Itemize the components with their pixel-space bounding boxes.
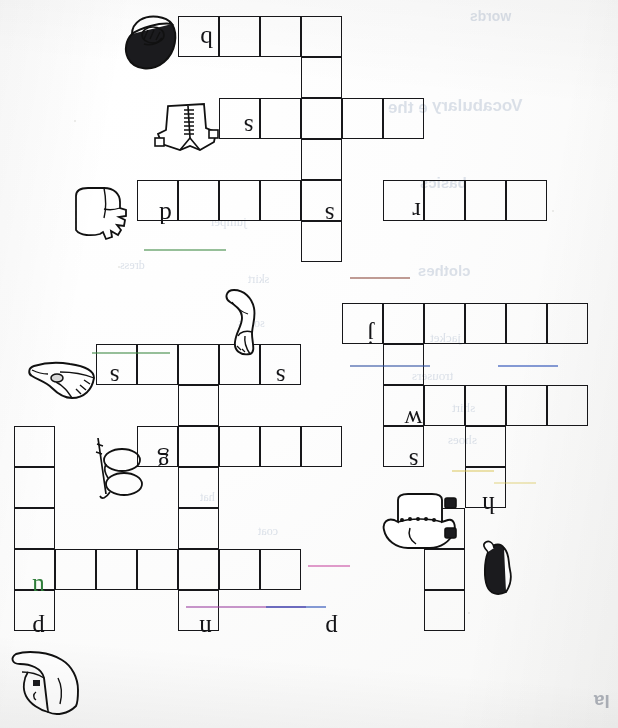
crossword-cell[interactable]: [14, 508, 55, 549]
bird-shoe-image: [26, 350, 98, 408]
paper-speck: [74, 120, 76, 122]
crossword-cell[interactable]: [301, 139, 342, 180]
crossword-cell[interactable]: [301, 221, 342, 262]
crossword-cell[interactable]: [96, 344, 137, 385]
crossword-cell[interactable]: [178, 549, 219, 590]
crossword-cell[interactable]: [14, 426, 55, 467]
crossword-cell[interactable]: [342, 303, 383, 344]
scan-artifact: [308, 565, 350, 567]
paper-speck: [118, 266, 120, 268]
sweater-image: [378, 490, 460, 556]
crossword-cell[interactable]: [178, 508, 219, 549]
crossword-cell[interactable]: [14, 549, 55, 590]
crossword-cell[interactable]: [96, 549, 137, 590]
crossword-cell[interactable]: [260, 426, 301, 467]
crossword-cell[interactable]: [178, 426, 219, 467]
crossword-cell[interactable]: [383, 98, 424, 139]
cap-image: [118, 6, 184, 78]
crossword-cell[interactable]: [383, 385, 424, 426]
scan-artifact: [266, 606, 326, 608]
page-corner-text: la: [594, 690, 610, 712]
crossword-cell[interactable]: [137, 344, 178, 385]
hat-image: [470, 538, 520, 598]
letter-p-right: p: [311, 607, 352, 648]
crossword-cell[interactable]: [424, 180, 465, 221]
crossword-cell[interactable]: [383, 426, 424, 467]
scan-artifact: [452, 470, 494, 472]
shirt-image: [150, 94, 224, 156]
crossword-cell[interactable]: [260, 16, 301, 57]
glove-image: [68, 182, 130, 242]
crossword-cell[interactable]: [14, 467, 55, 508]
crossword-cell[interactable]: [301, 426, 342, 467]
boot-image: [4, 648, 84, 722]
scan-artifact: [494, 482, 536, 484]
crossword-cell[interactable]: [301, 98, 342, 139]
crossword-cell[interactable]: [55, 549, 96, 590]
bleed-text: words: [470, 8, 511, 24]
crossword-cell[interactable]: [547, 385, 588, 426]
paper-speck: [468, 612, 470, 614]
crossword-cell[interactable]: [178, 180, 219, 221]
bleed-text: skirt: [248, 272, 269, 287]
bleed-text: clothes: [418, 262, 471, 279]
crossword-cell[interactable]: [260, 180, 301, 221]
cell-letter: p: [311, 607, 352, 648]
crossword-cell[interactable]: [219, 180, 260, 221]
crossword-cell[interactable]: [137, 180, 178, 221]
crossword-cell[interactable]: [178, 385, 219, 426]
crossword-cell[interactable]: [178, 467, 219, 508]
crossword-cell[interactable]: [506, 180, 547, 221]
crossword-cell[interactable]: [219, 98, 260, 139]
crossword-cell[interactable]: [383, 180, 424, 221]
crossword-cell[interactable]: [219, 549, 260, 590]
bleed-text: coat: [258, 524, 278, 539]
crossword-cell[interactable]: [342, 98, 383, 139]
crossword-cell[interactable]: [465, 303, 506, 344]
crossword-cell[interactable]: [547, 303, 588, 344]
crossword-cell[interactable]: [178, 590, 219, 631]
crossword-cell[interactable]: [424, 590, 465, 631]
crossword-cell[interactable]: [465, 385, 506, 426]
crossword-cell[interactable]: [506, 385, 547, 426]
scan-artifact: [350, 277, 410, 279]
scan-artifact: [498, 365, 558, 367]
crossword-cell[interactable]: [260, 98, 301, 139]
crossword-cell[interactable]: [301, 57, 342, 98]
bleed-text: Vocabulary: [432, 96, 522, 116]
crossword-cell[interactable]: [219, 426, 260, 467]
crossword-cell[interactable]: [301, 180, 342, 221]
crossword-cell[interactable]: [465, 180, 506, 221]
glasses-image: [90, 428, 146, 504]
paper-speck: [552, 210, 554, 212]
crossword-cell[interactable]: [465, 467, 506, 508]
crossword-cell[interactable]: [301, 16, 342, 57]
crossword-cell[interactable]: [178, 344, 219, 385]
scan-artifact: [144, 249, 226, 251]
crossword-cell[interactable]: [383, 303, 424, 344]
worksheet-page: Vocabularye thewordsbasicsclothesjackett…: [0, 0, 618, 728]
scan-artifact: [350, 365, 430, 367]
crossword-cell[interactable]: [14, 590, 55, 631]
sock-image: [220, 286, 268, 358]
bleed-text: dress: [120, 258, 145, 273]
crossword-cell[interactable]: [424, 385, 465, 426]
scan-artifact: [92, 352, 170, 354]
crossword-cell[interactable]: [219, 16, 260, 57]
crossword-cell[interactable]: [424, 303, 465, 344]
crossword-cell[interactable]: [506, 303, 547, 344]
crossword-cell[interactable]: [137, 549, 178, 590]
crossword-cell[interactable]: [465, 426, 506, 467]
crossword-cell[interactable]: [178, 16, 219, 57]
crossword-cell[interactable]: [260, 549, 301, 590]
